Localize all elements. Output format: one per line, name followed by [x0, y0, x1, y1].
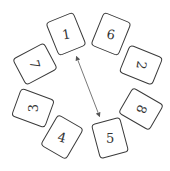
double-arrow-icon: [0, 0, 170, 171]
